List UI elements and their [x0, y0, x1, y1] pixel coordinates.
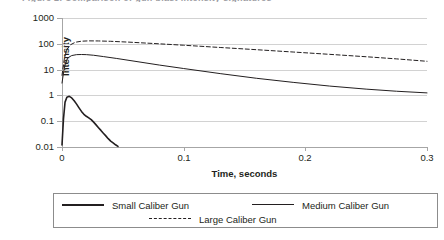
x-tick: [427, 147, 428, 151]
chart-legend: Small Caliber Gun Medium Caliber Gun Lar…: [53, 193, 438, 228]
legend-item-medium: Medium Caliber Gun: [252, 199, 389, 211]
x-tick-label: 0.1: [164, 153, 204, 163]
legend-swatch-solid-thin-icon: [252, 200, 294, 210]
y-tick-label: 10: [43, 65, 54, 74]
y-tick-label: 0.1: [41, 116, 54, 125]
figure-title-clipped: Figure 2. Comparison of gun blast intens…: [22, 0, 322, 2]
legend-swatch-solid-thick-icon: [62, 200, 104, 210]
legend-item-large: Large Caliber Gun: [149, 213, 277, 225]
x-tick-label: 0: [42, 153, 82, 163]
chart-figure: Figure 2. Comparison of gun blast intens…: [0, 0, 444, 240]
x-tick-label: 0.3: [407, 153, 444, 163]
x-axis-title: Time, seconds: [62, 168, 427, 179]
x-tick-label: 0.2: [285, 153, 325, 163]
plot-area: Intensity Time, seconds 0.010.1110100100…: [62, 18, 427, 147]
legend-swatch-dashed-icon: [149, 214, 191, 224]
y-tick-label: 0.01: [36, 142, 55, 151]
series-lines: [62, 18, 427, 147]
legend-label-small: Small Caliber Gun: [112, 200, 189, 211]
x-tick: [62, 147, 63, 151]
legend-label-medium: Medium Caliber Gun: [302, 200, 389, 211]
x-tick: [184, 147, 185, 151]
x-axis-line: [62, 147, 427, 148]
y-tick-label: 1000: [33, 13, 54, 22]
series-line-medium-caliber-gun: [62, 55, 427, 93]
legend-item-small: Small Caliber Gun: [62, 199, 189, 211]
series-line-small-caliber-gun: [62, 96, 118, 146]
x-tick: [305, 147, 306, 151]
legend-label-large: Large Caliber Gun: [199, 214, 277, 225]
y-tick-label: 100: [38, 39, 54, 48]
y-tick-label: 1: [49, 90, 54, 99]
